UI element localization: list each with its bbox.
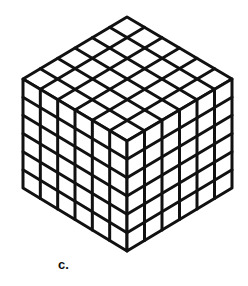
- figure-caption-label: c.: [58, 257, 69, 272]
- grid-cube-diagram: [0, 0, 248, 286]
